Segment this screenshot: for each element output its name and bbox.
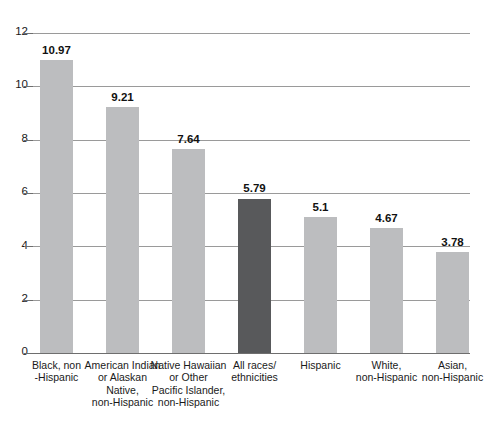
y-axis-tick-label-8: 8	[22, 133, 28, 145]
x-axis-label-line: non-Hispanic	[141, 396, 236, 408]
tick-mark-10	[24, 86, 33, 87]
tick-mark-2	[24, 300, 33, 301]
bar-value-label: 9.21	[111, 92, 133, 104]
bar-all-races-ethnicities[interactable]: 5.79	[238, 33, 271, 353]
y-axis-tick-label-6: 6	[22, 186, 28, 198]
y-axis-tick-label-10: 10	[15, 79, 28, 91]
bar-value-label: 3.78	[441, 237, 463, 249]
bar-hispanic[interactable]: 5.1	[304, 33, 337, 353]
tick-mark-0	[24, 353, 33, 354]
tick-mark-6	[24, 193, 33, 194]
tick-mark-8	[24, 140, 33, 141]
bar-value-label: 4.67	[375, 213, 397, 225]
y-axis-tick-4: 4	[0, 240, 28, 254]
x-axis-label-line: Pacific Islander,	[141, 384, 236, 396]
bar-american-indian-or-alaskan-native[interactable]: 9.21	[106, 33, 139, 353]
x-axis-line	[33, 353, 470, 354]
bar-fill	[436, 252, 469, 353]
bar-fill	[106, 107, 139, 353]
bar-value-label: 5.79	[243, 183, 265, 195]
bar-native-hawaiian-or-other-pacific-islander[interactable]: 7.64	[172, 33, 205, 353]
bar-white-non-hispanic[interactable]: 4.67	[370, 33, 403, 353]
bar-fill	[172, 149, 205, 353]
bar-fill	[304, 217, 337, 353]
y-axis-tick-label-2: 2	[22, 293, 28, 305]
bar-chart: 12 10 8 6 4 2 0 10.97 9.21 7.64	[0, 0, 499, 424]
bar-value-label: 7.64	[177, 134, 199, 146]
bar-fill	[40, 60, 73, 353]
bar-value-label: 10.97	[42, 45, 71, 57]
bar-asian-non-hispanic[interactable]: 3.78	[436, 33, 469, 353]
x-axis-label-line: Asian,	[405, 359, 499, 371]
bar-black-non-hispanic[interactable]: 10.97	[40, 33, 73, 353]
bar-fill	[370, 228, 403, 353]
bar-value-label: 5.1	[313, 202, 329, 214]
tick-mark-4	[24, 246, 33, 247]
y-axis-tick-label-12: 12	[15, 26, 28, 38]
plot-area: 10.97 9.21 7.64 5.79 5.1 4.67 3.78	[33, 33, 470, 353]
x-axis-label-line: non-Hispanic	[405, 371, 499, 383]
x-axis-label-asian-non-hispanic: Asian, non-Hispanic	[405, 359, 499, 384]
y-axis-tick-label-0: 0	[22, 346, 28, 358]
tick-mark-12	[24, 33, 33, 34]
x-axis-label-line: ethnicities	[207, 371, 302, 383]
bar-fill-highlight	[238, 199, 271, 353]
